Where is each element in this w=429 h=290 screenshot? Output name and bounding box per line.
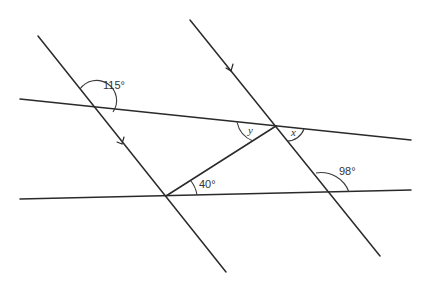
angle-label-y: y: [248, 125, 253, 136]
connector-line: [166, 126, 276, 196]
lower-transversal-line: [20, 190, 411, 199]
diagram-canvas: [0, 0, 429, 290]
right-parallel-line: [190, 20, 380, 256]
angle-label-115: 115°: [103, 80, 125, 91]
angle-label-40: 40°: [199, 179, 216, 190]
upper-transversal-line: [20, 99, 411, 140]
angle-arc-40: [191, 181, 197, 195]
angle-label-98: 98°: [339, 166, 356, 177]
angle-label-x: x: [291, 127, 296, 138]
left-parallel-line: [38, 36, 226, 272]
